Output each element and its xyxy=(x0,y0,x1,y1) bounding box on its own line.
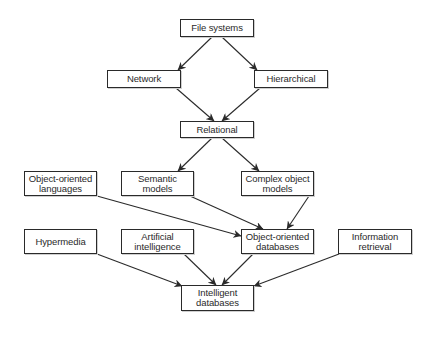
node-intelligent-databases: Intelligent databases xyxy=(181,285,254,311)
arrow-network-to-relational xyxy=(176,88,214,121)
arrow-hypermedia-to-intelligent_databases xyxy=(97,254,182,286)
arrow-relational-to-complex_object_models xyxy=(222,138,259,171)
arrow-relational-to-semantic_models xyxy=(178,138,212,171)
node-artificial-intelligence: Artificial intelligence xyxy=(121,229,194,254)
node-relational: Relational xyxy=(180,121,254,138)
arrow-hierarchical-to-relational xyxy=(222,88,260,121)
arrow-artificial_intelligence-to-intelligent_databases xyxy=(184,254,216,285)
node-complex-object-models: Complex object models xyxy=(241,171,314,196)
arrow-file_systems-to-hierarchical xyxy=(222,37,257,70)
node-hierarchical: Hierarchical xyxy=(254,70,328,88)
node-semantic-models: Semantic models xyxy=(121,171,194,196)
node-object-oriented-languages: Object-oriented languages xyxy=(24,171,97,196)
node-information-retrieval: Information retrieval xyxy=(338,229,412,254)
node-hypermedia: Hypermedia xyxy=(24,229,97,254)
node-object-oriented-databases: Object-oriented databases xyxy=(241,229,314,254)
node-file-systems: File systems xyxy=(180,19,254,37)
arrow-file_systems-to-network xyxy=(178,37,212,70)
node-network: Network xyxy=(107,70,181,88)
arrow-semantic_models-to-oo_databases xyxy=(190,196,263,229)
arrow-information_retrieval-to-intelligent_databases xyxy=(254,254,339,286)
arrow-complex_object_models-to-oo_databases xyxy=(287,196,309,229)
arrow-oo_databases-to-intelligent_databases xyxy=(222,254,253,285)
